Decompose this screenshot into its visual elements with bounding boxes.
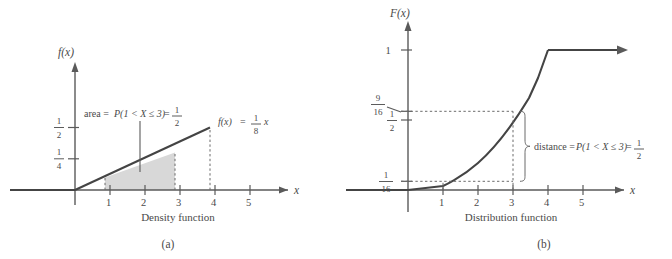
x-tick-label-4: 4 <box>211 197 217 208</box>
y-tick-label-one-half: 1 2 <box>54 116 64 140</box>
distance-brace <box>520 111 530 181</box>
y-tick-quarter-denominator: 4 <box>57 161 62 171</box>
y-tick-half-numerator: 1 <box>57 116 62 126</box>
area-annotation-probability: P(1 < X ≤ 3) <box>113 108 166 120</box>
panel-caption-density: Density function <box>141 211 215 223</box>
y-tick-one-sixteenth-numerator: 1 <box>384 170 389 180</box>
x-tick-label-5: 5 <box>246 197 251 208</box>
x-axis-arrowhead <box>279 187 288 194</box>
y-axis-label: f(x) <box>58 46 74 59</box>
y-tick-quarter-numerator: 1 <box>57 147 62 157</box>
y-tick-one-half-numerator: 1 <box>390 109 395 119</box>
y-tick-label-one-half: 1 2 <box>387 109 397 133</box>
y-tick-label-one: 1 <box>385 45 390 56</box>
y-axis-arrowhead <box>405 21 412 31</box>
area-annotation: area = P(1 < X ≤ 3) = 1 2 <box>84 105 182 128</box>
area-annotation-value-denominator: 2 <box>175 118 180 128</box>
x-tick-label-4: 4 <box>544 197 550 208</box>
distribution-arrowhead <box>617 46 628 55</box>
x-axis-arrowhead <box>615 187 624 194</box>
function-label-coef-denominator: 8 <box>254 126 259 136</box>
distribution-curve <box>408 50 548 190</box>
x-tick-label-3: 3 <box>176 197 181 208</box>
function-label-coef-numerator: 1 <box>254 113 259 123</box>
panel-density-function: 1 2 1 4 1 2 3 4 5 <box>0 0 336 259</box>
y-tick-one-sixteenth-denominator: 16 <box>382 184 392 194</box>
distance-annotation: distance = P(1 < X ≤ 3) = 1 2 <box>534 138 644 161</box>
distance-annotation-equals: = <box>626 141 632 152</box>
y-tick-label-one-quarter: 1 4 <box>54 147 64 171</box>
x-tick-label-2: 2 <box>474 197 479 208</box>
y-tick-nine-sixteenths-denominator: 16 <box>374 107 384 117</box>
y-axis-arrowhead <box>72 62 79 72</box>
x-axis-label: x <box>293 184 300 196</box>
distance-annotation-prefix: distance = <box>534 141 575 152</box>
distance-annotation-probability: P(1 < X ≤ 3) <box>575 141 628 153</box>
x-tick-label-2: 2 <box>141 197 146 208</box>
x-tick-label-5: 5 <box>579 197 584 208</box>
x-tick-label-3: 3 <box>509 197 514 208</box>
panel-distribution-function: 1 9 16 1 2 1 16 <box>336 0 672 259</box>
area-annotation-value-numerator: 1 <box>175 105 180 115</box>
function-label: f(x) = 1 8 x <box>218 113 269 136</box>
panel-tag-b: (b) <box>537 238 551 251</box>
y-tick-label-nine-sixteenths: 9 16 <box>371 93 401 117</box>
distance-annotation-value-numerator: 1 <box>637 138 642 148</box>
panel-tag-a: (a) <box>162 238 175 251</box>
density-function-plot: 1 2 1 4 1 2 3 4 5 <box>0 0 336 259</box>
area-annotation-equals: = <box>164 108 170 119</box>
y-tick-one-half-denominator: 2 <box>390 123 395 133</box>
function-label-equals: = <box>240 116 246 127</box>
x-tick-label-1: 1 <box>439 197 444 208</box>
distance-annotation-value-denominator: 2 <box>637 151 642 161</box>
x-axis-label: x <box>629 184 636 196</box>
x-tick-label-1: 1 <box>106 197 111 208</box>
panel-caption-distribution: Distribution function <box>465 211 558 223</box>
figure-container: 1 2 1 4 1 2 3 4 5 <box>0 0 672 259</box>
y-axis-label: F(x) <box>389 7 410 20</box>
y-tick-nine-sixteenths-numerator: 9 <box>376 93 381 103</box>
function-label-name: f(x) <box>218 116 233 128</box>
y-tick-half-denominator: 2 <box>57 130 62 140</box>
function-label-variable: x <box>263 116 269 127</box>
area-annotation-prefix: area = <box>84 108 109 119</box>
distribution-function-plot: 1 9 16 1 2 1 16 <box>336 0 672 259</box>
